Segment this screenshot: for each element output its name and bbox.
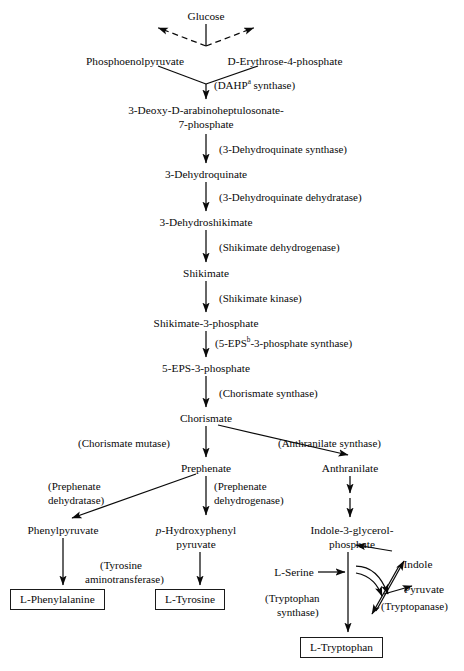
node-5-eps-3-phosphate: 5-EPS-3-phosphate (162, 362, 250, 375)
enzyme-dahp-synthase: (DAHPa synthase) (214, 79, 295, 91)
node-anthranilate: Anthranilate (322, 462, 378, 475)
node-shikimate-3-phosphate: Shikimate-3-phosphate (154, 317, 259, 330)
enzyme-tryptophan-synthase-line2: synthase) (277, 606, 319, 618)
enzyme-prephenate-dehydrogenase-line2: dehydrogenase) (214, 494, 284, 506)
enzyme-chorismate-synthase: (Chorismate synthase) (219, 387, 318, 399)
node-glucose: Glucose (187, 10, 224, 23)
hpp-line1-rest: -Hydroxyphenyl (161, 524, 236, 536)
node-p-hydroxyphenyl-line2: pyruvate (176, 538, 216, 551)
enzyme-prephenate-dehydratase-line1: (Prephenate (48, 480, 101, 492)
node-phenylpyruvate: Phenylpyruvate (28, 524, 99, 537)
product-box-l-phenylalanine: L-Phenylalanine (10, 589, 105, 610)
node-indole: Indole (404, 558, 433, 571)
node-pyruvate: Pyruvate (404, 583, 444, 596)
node-indole-3-glycerol-line1: Indole-3-glycerol- (311, 524, 394, 537)
line-pep-converge (158, 66, 206, 84)
enzyme-tryptopanase: (Tryptopanase) (381, 600, 448, 612)
node-chorismate: Chorismate (180, 412, 232, 425)
node-3-dehydroquinate: 3-Dehydroquinate (165, 168, 247, 181)
enzyme-3-dehydroquinate-synthase: (3-Dehydroquinate synthase) (219, 143, 347, 155)
pathway-diagram: Glucose Phosphoenolpyruvate D-Erythrose-… (0, 0, 464, 671)
node-shikimate: Shikimate (183, 267, 229, 280)
enzyme-shikimate-dehydrogenase: (Shikimate dehydrogenase) (219, 241, 340, 253)
enzyme-tyrosine-aminotransferase-line2: aminotransferase) (85, 573, 164, 585)
pathway-arrows-layer (0, 0, 464, 671)
node-prephenate: Prephenate (181, 462, 231, 475)
enzyme-tryptophan-synthase-line1: (Tryptophan (265, 592, 320, 604)
enzyme-5-eps-3-phosphate-synthase: (5-EPSb-3-phosphate synthase) (215, 337, 352, 349)
enzyme-tyrosine-aminotransferase-line1: (Tyrosine (100, 559, 142, 571)
enzyme-anthranilate-synthase: (Anthranilate synthase) (278, 437, 381, 449)
product-box-l-tryptophan: L-Tryptophan (300, 637, 383, 658)
enzyme-3-dehydroquinate-dehydratase: (3-Dehydroquinate dehydratase) (219, 191, 362, 203)
enzyme-chorismate-mutase: (Chorismate mutase) (78, 437, 170, 449)
node-indole-3-glycerol-line2: phosphate (329, 538, 375, 551)
arrow-glucose-to-e4p (206, 27, 254, 47)
arrow-glucose-to-pep (158, 27, 206, 47)
node-l-serine: L-Serine (274, 566, 314, 579)
enzyme-shikimate-kinase: (Shikimate kinase) (219, 292, 302, 304)
node-3-dehydroshikimate: 3-Dehydroshikimate (160, 216, 253, 229)
enzyme-prephenate-dehydrogenase-line1: (Prephenate (214, 480, 267, 492)
node-dahp-line1: 3-Deoxy-D-arabinoheptulosonate- (128, 104, 284, 117)
node-p-hydroxyphenyl-line1: p-Hydroxyphenyl (156, 524, 236, 537)
node-d-erythrose-4-phosphate: D-Erythrose-4-phosphate (228, 55, 343, 68)
node-phosphoenolpyruvate: Phosphoenolpyruvate (86, 55, 184, 68)
enzyme-prephenate-dehydratase-line2: dehydratase) (48, 494, 104, 506)
node-dahp-line2: 7-phosphate (178, 118, 233, 131)
product-box-l-tyrosine: L-Tyrosine (155, 589, 225, 610)
